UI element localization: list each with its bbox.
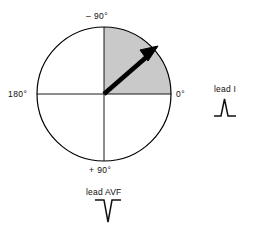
axis-label-0: 0° [176, 90, 185, 99]
lead-i-label: lead I [214, 85, 236, 94]
lead-avf-label: lead AVF [86, 188, 121, 197]
axis-label-minus-90: – 90° [86, 12, 108, 21]
lead-avf-waveform [95, 200, 121, 222]
axis-label-180: 180° [8, 90, 27, 99]
axis-label-plus-90: + 90° [89, 166, 111, 175]
lead-i-waveform [214, 99, 236, 116]
cardiac-axis-figure: – 90° 0° + 90° 180° lead I lead AVF [0, 0, 257, 245]
axis-diagram-svg [0, 0, 257, 245]
